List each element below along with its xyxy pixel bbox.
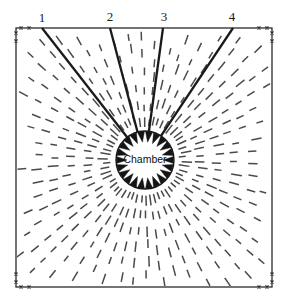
figure-container: Chamber 1234: [0, 0, 291, 301]
geology-chamber-fracture-diagram: Chamber 1234: [0, 0, 291, 301]
chamber-label: Chamber: [123, 153, 167, 165]
fracture-label-2: 2: [107, 9, 114, 24]
magma-chamber: Chamber: [116, 131, 174, 189]
fracture-label-3: 3: [161, 9, 168, 24]
fracture-label-4: 4: [229, 9, 236, 24]
fracture-label-1: 1: [39, 10, 46, 25]
